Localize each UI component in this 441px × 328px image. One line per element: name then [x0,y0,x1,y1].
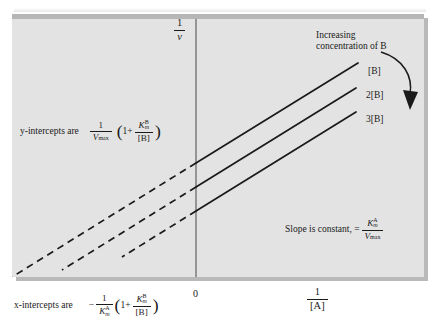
x-intercepts-one-plus: 1+ [120,300,130,311]
y-intercepts-V-subscript: max [98,135,108,141]
increasing-concentration-arrow [381,52,411,94]
y-intercepts-close-paren: ) [155,125,161,138]
x-intercepts-K-subscript: m [105,312,109,318]
y-intercepts-K-subscript: m [145,125,149,131]
x-axis-title-numerator: 1 [312,287,323,299]
curve-3b-dashed [122,211,196,257]
curve-2b-dashed [62,187,196,270]
lineweaver-burk-figure: 1 v 1 [A] 0 Increasing concentration of … [0,0,441,328]
curve-b-dashed [12,163,196,277]
y-axis-title-denominator: v [174,30,185,43]
slope-annotation: Slope is constant, = K A m V max [285,218,385,242]
increasing-note-line2: concentration of B [316,41,387,52]
x-intercepts-annotation: x-intercepts are − 1 K A m ( 1+ [14,294,159,318]
x-intercepts-prefix: x-intercepts are [14,300,73,311]
x-intercepts-open-paren: ( [115,299,121,312]
curve-label-b: [B] [368,66,381,77]
y-axis-title-numerator: 1 [174,18,185,30]
y-intercepts-annotation: y-intercepts are 1 V max ( 1+ K [20,120,161,144]
y-intercepts-frac-numerator: 1 [96,121,107,131]
curve-b-solid [196,63,358,163]
increasing-note-line1: Increasing [316,30,387,41]
y-intercepts-open-paren: ( [117,125,123,138]
slope-annotation-prefix: Slope is constant, = [285,224,360,235]
curve-label-2b: 2[B] [366,90,383,101]
x-axis-title: 1 [A] [305,287,330,311]
increasing-concentration-note: Increasing concentration of B [316,30,387,51]
x-intercepts-Kb-subscript: m [143,299,147,305]
y-axis-title: 1 v [172,18,187,42]
x-intercepts-Kb-denominator: [B] [133,306,151,317]
y-intercepts-prefix: y-intercepts are [20,126,79,137]
arrowhead-icon [403,90,418,110]
x-intercepts-close-paren: ) [153,299,159,312]
origin-label: 0 [193,288,198,299]
slope-V-subscript: max [370,234,380,240]
curve-3b-solid [196,112,356,211]
y-intercepts-K-denominator: [B] [135,132,153,143]
top-band-shadow [14,8,426,12]
x-intercepts-frac-numerator: 1 [99,294,110,304]
curve-label-3b: 3[B] [366,114,383,125]
curve-2b-solid [196,88,356,187]
slope-K-subscript: m [373,223,377,229]
x-axis-title-denominator: [A] [307,299,328,312]
x-intercepts-minus-sign: − [89,300,94,311]
y-intercepts-one-plus: 1+ [123,126,133,137]
